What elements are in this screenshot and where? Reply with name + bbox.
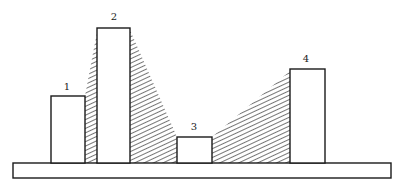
block-rect (51, 96, 85, 163)
hatch-between-3-and-4 (212, 71, 290, 163)
block-label: 3 (191, 121, 197, 132)
block-rect (177, 137, 212, 163)
block-label: 2 (111, 11, 117, 22)
block-diagram: 1234 (0, 0, 403, 189)
base-platform (13, 163, 391, 178)
block-3: 3 (177, 121, 212, 163)
block-1: 1 (51, 81, 85, 163)
block-label: 4 (303, 53, 309, 64)
block-rect (290, 69, 325, 163)
hatch-between-2-and-3 (130, 30, 177, 163)
block-2: 2 (97, 11, 130, 163)
block-rect (97, 28, 130, 163)
block-4: 4 (290, 53, 325, 163)
block-label: 1 (64, 81, 70, 92)
hatch-between-1-and-2 (85, 32, 97, 163)
